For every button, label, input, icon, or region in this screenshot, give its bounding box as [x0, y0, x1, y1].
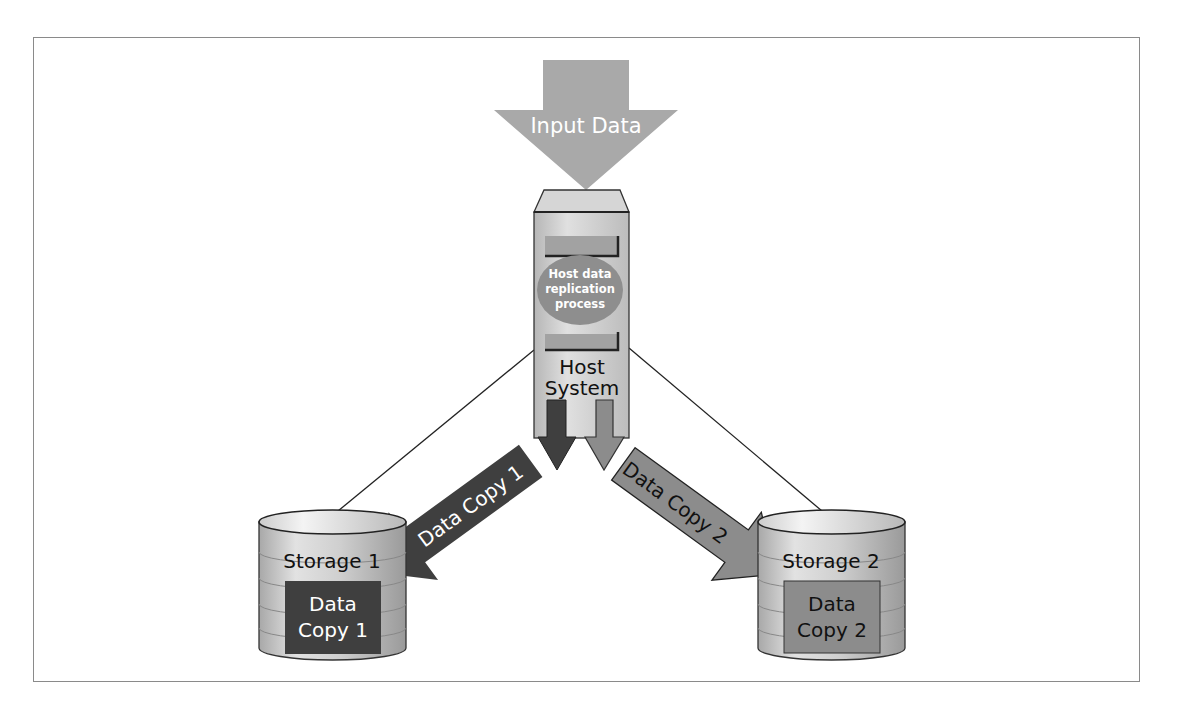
replication-diagram: Input Data Host data replication process… — [0, 0, 1178, 712]
storage-1-title: Storage 1 — [283, 549, 380, 573]
input-data-arrow: Input Data — [494, 60, 678, 190]
drive-slot-icon — [545, 236, 618, 256]
storage-2-cylinder: Storage 2 Data Copy 2 — [758, 510, 905, 660]
data-copy-1-label: Data Copy 1 — [413, 460, 527, 552]
storage-2-data-line-2: Copy 2 — [797, 618, 867, 642]
storage-1-data-line-2: Copy 1 — [298, 618, 368, 642]
storage-1-cylinder: Storage 1 Data Copy 1 — [259, 510, 406, 660]
process-line-1: Host data — [548, 267, 611, 281]
process-line-3: process — [555, 297, 605, 311]
storage-2-title: Storage 2 — [782, 549, 879, 573]
data-copy-2-label: Data Copy 2 — [618, 457, 732, 549]
input-data-label: Input Data — [530, 114, 641, 138]
storage-1-data-line-1: Data — [309, 592, 357, 616]
process-line-2: replication — [545, 282, 615, 296]
storage-2-data-line-1: Data — [808, 592, 856, 616]
host-label-line-2: System — [545, 376, 620, 400]
drive-slot-icon — [545, 332, 618, 350]
host-system: Host data replication process Host Syste… — [534, 190, 629, 470]
